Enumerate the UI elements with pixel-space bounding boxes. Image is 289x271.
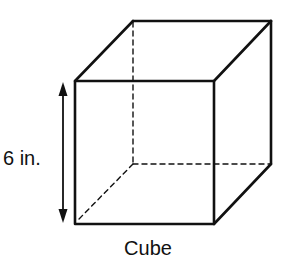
cube-diagram <box>0 0 289 271</box>
height-dimension-arrow <box>59 82 68 223</box>
dimension-label: 6 in. <box>3 148 41 168</box>
figure-caption: Cube <box>0 238 289 258</box>
